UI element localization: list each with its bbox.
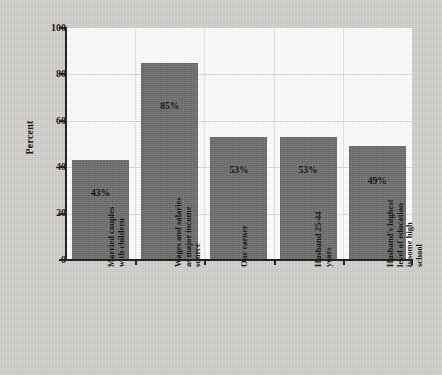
y-tick-mark-20	[59, 213, 66, 215]
y-tick-mark-0	[59, 259, 66, 261]
gridline-60	[66, 121, 412, 122]
bar-value-label: 49%	[349, 176, 406, 186]
category-label-married-couples-with-children: Married couples with children	[66, 263, 135, 375]
y-tick-mark-40	[59, 166, 66, 168]
bar-value-label: 85%	[141, 101, 198, 111]
gridline-vertical-2	[204, 28, 205, 260]
category-label-line: with children	[117, 207, 127, 267]
y-axis-line	[65, 27, 67, 261]
x-axis-category-labels: Married couples with children Wages and …	[66, 263, 412, 375]
category-label-husband-25-44-years: Husband 25-44 years	[274, 263, 343, 375]
y-tick-mark-80	[59, 73, 66, 75]
category-label-line: years	[323, 211, 333, 267]
bar-value-label: 43%	[72, 188, 129, 198]
bar-chart-figure: 0 20 40 60 80 100 Percent 43% 85% 53% 53…	[0, 0, 442, 375]
y-axis-title: Percent	[24, 103, 35, 173]
y-axis-tick-labels: 0 20 40 60 80 100	[12, 0, 66, 375]
category-label-line: One earner	[240, 225, 250, 267]
gridline-vertical-4	[343, 28, 344, 260]
gridline-80	[66, 74, 412, 75]
gridline-vertical-1	[135, 28, 136, 260]
category-label-line: Husband 25-44	[314, 211, 324, 267]
y-tick-mark-60	[59, 120, 66, 122]
bar-value-label: 53%	[210, 165, 267, 175]
gridline-vertical-3	[274, 28, 275, 260]
category-label-one-earner: One earner	[204, 263, 273, 375]
category-label-wages-and-salaries-as-major-income-source: Wages and salaries as major income sourc…	[135, 263, 204, 375]
category-label-line: school	[415, 199, 425, 267]
category-label-husband-highest-level-of-education-is-some-high-school: Husband's highest level of education is …	[343, 263, 412, 375]
category-label-line: source	[193, 197, 203, 267]
y-tick-mark-100	[59, 27, 66, 29]
category-label-line: Husband's highest	[386, 199, 396, 267]
bar-value-label: 53%	[280, 165, 337, 175]
